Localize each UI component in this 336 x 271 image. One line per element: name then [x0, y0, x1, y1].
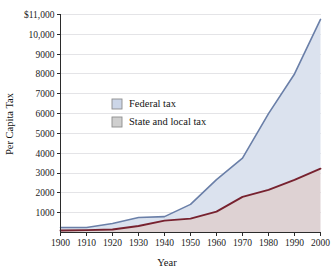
- legend-label-state-and-local-tax: State and local tax: [129, 116, 207, 127]
- x-tick-label: 1910: [77, 238, 96, 248]
- x-axis-title: Year: [157, 257, 177, 268]
- y-axis-title: Per Capita Tax: [4, 92, 15, 155]
- legend-swatch-federal-tax: [112, 99, 122, 109]
- per-capita-tax-area-chart: 10002000300040005000600070008000900010,0…: [0, 0, 336, 271]
- x-tick-label: 1980: [259, 238, 278, 248]
- x-tick-label: 1960: [207, 238, 226, 248]
- y-tick-label: 3000: [36, 168, 55, 178]
- y-tick-label: 1000: [36, 208, 55, 218]
- x-tick-label: 1920: [103, 238, 122, 248]
- chart-container: 10002000300040005000600070008000900010,0…: [0, 0, 336, 271]
- y-tick-label: 2000: [36, 188, 55, 198]
- y-tick-label: 5000: [36, 129, 55, 139]
- y-tick-label: 7000: [36, 89, 55, 99]
- x-axis-tick-labels: 1900191019201930194019501960197019801990…: [51, 238, 330, 248]
- x-tick-label: 1970: [233, 238, 252, 248]
- legend-swatch-state-and-local-tax: [112, 117, 122, 127]
- x-tick-label: 1930: [129, 238, 148, 248]
- legend-item-federal-tax[interactable]: Federal tax: [112, 98, 177, 109]
- legend-label-federal-tax: Federal tax: [129, 98, 177, 109]
- y-tick-label: 6000: [36, 109, 55, 119]
- x-tick-label: 1900: [51, 238, 70, 248]
- x-tick-label: 1990: [285, 238, 304, 248]
- y-tick-label: 9000: [36, 50, 55, 60]
- y-tick-label: 10,000: [28, 30, 54, 40]
- y-tick-label: $11,000: [24, 10, 55, 20]
- x-tick-label: 2000: [311, 238, 330, 248]
- y-tick-label: 4000: [36, 149, 55, 159]
- x-tick-label: 1940: [155, 238, 174, 248]
- y-tick-label: 8000: [36, 69, 55, 79]
- x-tick-label: 1950: [181, 238, 200, 248]
